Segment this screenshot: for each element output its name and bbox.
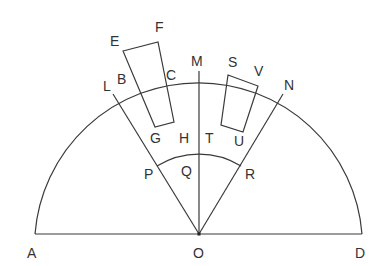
label-N: N [284, 77, 294, 93]
radius-ON [199, 94, 283, 234]
label-L: L [103, 78, 111, 94]
label-P: P [144, 166, 153, 182]
semicircle-diagram: A O D L B C M S V N E F G H T U P Q R [0, 0, 380, 266]
label-D: D [355, 245, 365, 261]
label-S: S [228, 54, 237, 70]
label-B: B [117, 71, 126, 87]
label-U: U [234, 133, 244, 149]
left-quadrilateral [123, 42, 174, 127]
label-F: F [155, 19, 164, 35]
label-Q: Q [181, 163, 192, 179]
right-quadrilateral [221, 75, 258, 132]
label-G: G [150, 130, 161, 146]
label-A: A [27, 245, 37, 261]
label-H: H [179, 130, 189, 146]
label-O: O [193, 245, 204, 261]
label-T: T [205, 130, 214, 146]
label-E: E [110, 33, 119, 49]
label-V: V [254, 63, 264, 79]
label-R: R [245, 166, 255, 182]
label-C: C [166, 67, 176, 83]
center-point-O [198, 233, 201, 236]
label-M: M [191, 53, 203, 69]
